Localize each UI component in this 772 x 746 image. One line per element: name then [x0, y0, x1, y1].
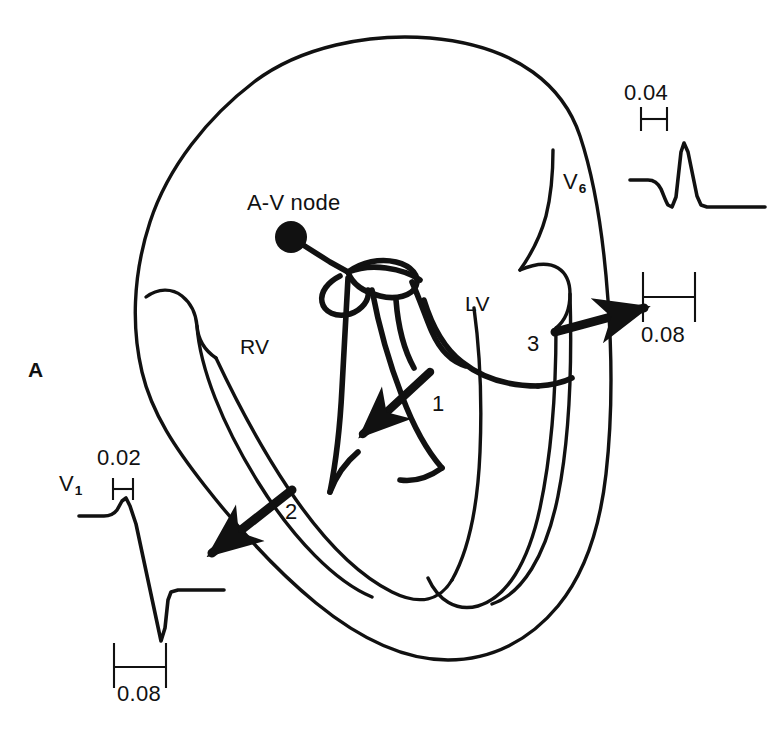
- lead-label-v6-subscript: 6: [579, 181, 587, 196]
- v1-interval-top-label: 0.02: [97, 447, 141, 469]
- left-anterior-fascicle: [412, 282, 466, 366]
- lead-label-v1-letter: V: [59, 471, 74, 496]
- v6-caliper-004: [641, 107, 667, 131]
- v1-ecg-trace: [79, 498, 224, 641]
- aortic-outflow-notch: [520, 150, 553, 270]
- left-ventricle-label: LV: [465, 293, 490, 314]
- lv-cavity-outer: [428, 328, 556, 608]
- lead-label-v6-letter: V: [563, 169, 578, 194]
- av-node-dot: [275, 221, 307, 253]
- lv-endocardial-border: [520, 264, 570, 328]
- right-ventricle-label: RV: [240, 336, 269, 357]
- septal-branch: [396, 300, 414, 368]
- right-bundle-branch: [330, 278, 348, 492]
- v6-interval-top-label: 0.04: [624, 82, 668, 104]
- lead-label-v1-subscript: 1: [75, 483, 83, 498]
- septum-lower-loop: [452, 308, 481, 580]
- activation-arrow-3-label: 3: [527, 333, 539, 355]
- conduction-system-group: [300, 243, 572, 492]
- lead-label-v1: V1: [59, 473, 81, 495]
- activation-arrow-1-label: 1: [432, 393, 444, 415]
- activation-arrow-2-label: 2: [285, 501, 297, 523]
- v1-interval-bottom-label: 0.08: [117, 683, 161, 705]
- his-bundle: [300, 243, 348, 272]
- av-node-label: A-V node: [247, 192, 340, 214]
- left-posterior-fascicle-terminal: [400, 468, 442, 481]
- lead-label-v6: V6: [563, 171, 585, 193]
- v1-caliper-002: [113, 478, 133, 500]
- figure-root: A A-V node RV LV V6 V1 1 2 3 0.04 0.08 0…: [0, 0, 772, 746]
- panel-label-a: A: [28, 359, 44, 380]
- v6-caliper-group: [641, 107, 695, 322]
- heart-outline-group: [135, 37, 611, 660]
- v6-caliper-008: [643, 272, 695, 322]
- v1-caliper-group: [113, 478, 166, 688]
- v6-interval-bottom-label: 0.08: [641, 324, 685, 346]
- v6-ecg-trace: [630, 143, 765, 207]
- cardiac-activation-illustration: [0, 0, 772, 746]
- rv-endocardial-border: [146, 290, 216, 358]
- activation-arrows-group: [212, 308, 644, 553]
